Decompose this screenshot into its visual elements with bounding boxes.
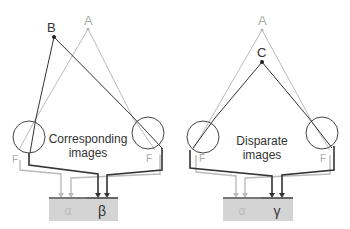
gamma-label: γ — [274, 203, 281, 219]
gamma-box: γ — [261, 197, 293, 221]
panel-disparate: A C F F Disparate images — [187, 13, 338, 221]
point-a-marker-right — [260, 28, 263, 31]
alpha-box-left: α — [49, 197, 87, 221]
alpha-label-right: α — [239, 204, 246, 218]
binocular-correspondence-diagram: A B F F Corresponding images — [0, 0, 350, 229]
right-eye-right-panel — [306, 117, 338, 149]
point-a-label: A — [84, 13, 93, 28]
light-wires-to-alpha — [20, 155, 160, 196]
caption-disparate-line2: images — [243, 148, 282, 162]
panel-corresponding: A B F F Corresponding images — [12, 13, 164, 221]
point-c-marker — [260, 60, 264, 64]
alpha-label-left: α — [65, 204, 72, 218]
point-c-label: C — [257, 45, 266, 60]
left-fovea-label: F — [12, 154, 18, 165]
left-fovea-label-right: F — [199, 153, 205, 164]
caption-disparate-line1: Disparate — [236, 134, 288, 148]
point-b-marker — [52, 35, 56, 39]
right-fovea-label-right: F — [320, 153, 326, 164]
alpha-box-right: α — [223, 197, 261, 221]
caption-corresponding-line1: Corresponding — [49, 132, 128, 146]
beta-label: β — [98, 203, 106, 219]
caption-corresponding-line2: images — [69, 146, 108, 160]
left-eye-right-panel — [187, 121, 219, 153]
left-eye — [13, 121, 45, 153]
point-a-label-right: A — [258, 13, 267, 28]
right-fovea-label: F — [146, 153, 152, 164]
beta-box: β — [87, 197, 118, 221]
point-b-label: B — [47, 20, 56, 35]
